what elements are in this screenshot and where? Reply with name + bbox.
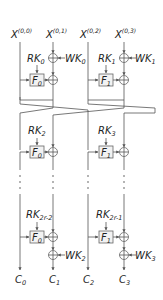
rk3-label: RK3 [98, 125, 116, 138]
ellipsis-dots [19, 175, 125, 189]
output-c1: C1 [49, 274, 60, 287]
feistel-diagram: X(0,0) X(0,1) X(0,2) X(0,3) WK0 WK1 RK0 … [0, 0, 163, 300]
wk0-label: WK0 [65, 53, 86, 66]
rk2-label: RK2 [28, 125, 46, 138]
wk2-label: WK2 [65, 250, 86, 263]
input-label-3: X(0,3) [114, 27, 136, 40]
rk2r-1-label: RK2r-1 [96, 209, 122, 222]
output-c3: C3 [119, 274, 130, 287]
rk2r-2-label: RK2r-2 [26, 209, 52, 222]
rk0-label: RK0 [27, 53, 45, 66]
input-label-1: X(0,1) [45, 27, 67, 40]
input-label-2: X(0,2) [79, 27, 101, 40]
rk1-label: RK1 [98, 53, 116, 66]
wk1-label: WK1 [135, 53, 156, 66]
input-label-0: X(0,0) [10, 27, 32, 40]
output-c2: C2 [83, 274, 94, 287]
wk3-label: WK3 [135, 250, 156, 263]
output-c0: C0 [15, 274, 26, 287]
